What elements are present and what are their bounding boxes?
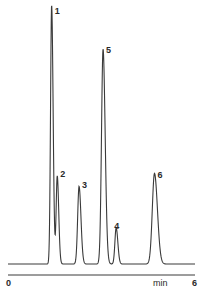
peak-label-4: 4 (114, 222, 119, 231)
chromatogram-plot (0, 0, 210, 294)
peak-label-2: 2 (60, 170, 65, 179)
peak-label-5: 5 (106, 46, 111, 55)
peak-label-1: 1 (55, 7, 60, 16)
peak-label-6: 6 (157, 171, 162, 180)
axis-start-label: 0 (6, 279, 11, 288)
axis-end-label: 6 (192, 279, 197, 288)
axis-unit-label: min (153, 279, 168, 288)
signal-trace (8, 6, 195, 264)
peak-label-3: 3 (82, 181, 87, 190)
